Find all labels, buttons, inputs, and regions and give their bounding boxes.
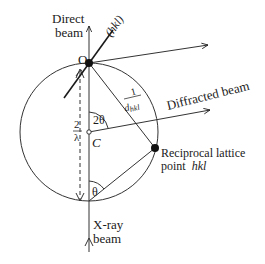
plane-label: (hkl) bbox=[102, 13, 126, 40]
xray-beam-label-1: X-ray bbox=[93, 217, 124, 232]
center-label: C bbox=[92, 135, 101, 150]
inv-d-numerator: 1 bbox=[129, 86, 137, 98]
diffracted-beam-label: Diffracted beam bbox=[165, 78, 251, 113]
reciprocal-label-1: Reciprocal lattice bbox=[161, 146, 245, 160]
origin-label: O bbox=[78, 52, 87, 67]
xray-beam-label-2: beam bbox=[93, 231, 121, 246]
reciprocal-lattice-point bbox=[151, 144, 159, 152]
diffracted-parallel-line bbox=[89, 45, 208, 63]
inv-d-denominator: dhkl bbox=[123, 99, 141, 116]
theta-label: θ bbox=[92, 185, 98, 199]
two-theta-label: 2θ bbox=[93, 113, 105, 127]
diffracted-beam-line bbox=[89, 110, 210, 132]
reciprocal-label-2: pointhkl bbox=[161, 159, 207, 173]
two-over-lambda-denominator: λ bbox=[74, 131, 80, 143]
direct-beam-label-2: beam bbox=[55, 25, 83, 40]
direct-beam-label-1: Direct bbox=[52, 11, 85, 26]
ewald-sphere-diagram: Direct beam (hkl) O 1 dhkl Diffracted be… bbox=[0, 0, 265, 264]
center-point bbox=[87, 130, 91, 134]
two-over-lambda-numerator: 2 bbox=[74, 118, 80, 130]
